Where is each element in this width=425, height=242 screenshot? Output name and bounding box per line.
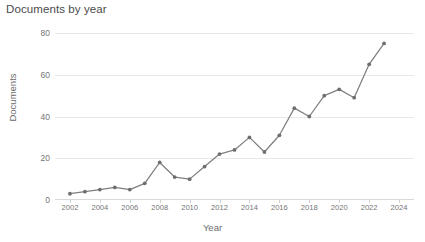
- data-point: [367, 62, 371, 66]
- x-tick-mark: [70, 200, 71, 203]
- x-tick-label: 2024: [391, 203, 408, 212]
- plot-area: [55, 33, 414, 200]
- x-tick-label: 2002: [62, 203, 79, 212]
- y-tick-label: 60: [30, 70, 50, 80]
- y-tick-label: 20: [30, 153, 50, 163]
- x-tick-mark: [249, 200, 250, 203]
- data-point: [263, 150, 267, 154]
- data-point: [188, 177, 192, 181]
- x-tick-label: 2008: [151, 203, 168, 212]
- y-axis-title: Documents: [7, 58, 18, 138]
- x-tick-label: 2022: [361, 203, 378, 212]
- x-axis-title: Year: [0, 222, 425, 233]
- line-series-documents: [55, 33, 414, 200]
- data-point: [352, 96, 356, 100]
- x-tick-mark: [160, 200, 161, 203]
- x-tick-mark: [339, 200, 340, 203]
- x-tick-mark: [220, 200, 221, 203]
- data-point: [248, 135, 252, 139]
- x-axis-tick-labels: 2002200420062008201020122014201620182020…: [55, 203, 414, 217]
- x-tick-mark: [130, 200, 131, 203]
- x-tick-label: 2014: [241, 203, 258, 212]
- x-tick-label: 2012: [211, 203, 228, 212]
- data-point: [143, 181, 147, 185]
- data-point: [233, 148, 237, 152]
- data-point: [158, 161, 162, 165]
- series-line: [70, 43, 384, 193]
- x-tick-mark: [309, 200, 310, 203]
- x-tick-label: 2018: [301, 203, 318, 212]
- data-point: [337, 87, 341, 91]
- data-point: [277, 133, 281, 137]
- data-point: [113, 186, 117, 190]
- data-point: [382, 42, 386, 46]
- x-tick-mark: [190, 200, 191, 203]
- data-point: [173, 175, 177, 179]
- data-point: [292, 106, 296, 110]
- x-tick-label: 2006: [121, 203, 138, 212]
- x-tick-mark: [279, 200, 280, 203]
- y-tick-label: 40: [30, 112, 50, 122]
- chart-title: Documents by year: [6, 3, 107, 15]
- x-tick-mark: [369, 200, 370, 203]
- data-point: [203, 165, 207, 169]
- data-point: [322, 94, 326, 98]
- x-tick-label: 2020: [331, 203, 348, 212]
- data-point: [128, 188, 132, 192]
- y-tick-label: 80: [30, 28, 50, 38]
- chart-container: Documents by year 020406080 200220042006…: [0, 0, 425, 242]
- y-axis-tick-labels: 020406080: [28, 33, 50, 200]
- data-point: [98, 188, 102, 192]
- data-point: [218, 152, 222, 156]
- x-tick-mark: [100, 200, 101, 203]
- x-tick-mark: [399, 200, 400, 203]
- data-point: [68, 192, 72, 196]
- x-tick-label: 2016: [271, 203, 288, 212]
- data-point: [83, 190, 87, 194]
- x-tick-label: 2010: [181, 203, 198, 212]
- y-tick-label: 0: [30, 195, 50, 205]
- x-tick-label: 2004: [91, 203, 108, 212]
- data-point: [307, 115, 311, 119]
